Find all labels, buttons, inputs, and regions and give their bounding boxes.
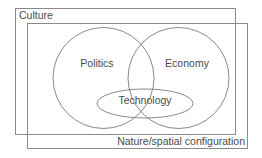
- nature-label: Nature/spatial configuration: [117, 135, 245, 147]
- politics-label: Politics: [80, 57, 113, 69]
- venn-diagram: Culture Nature/spatial configuration Pol…: [0, 0, 262, 158]
- technology-label: Technology: [118, 94, 172, 106]
- economy-label: Economy: [165, 57, 210, 69]
- politics-circle: [53, 28, 154, 129]
- culture-frame: [16, 9, 236, 135]
- culture-label: Culture: [19, 9, 53, 21]
- economy-circle: [128, 28, 229, 129]
